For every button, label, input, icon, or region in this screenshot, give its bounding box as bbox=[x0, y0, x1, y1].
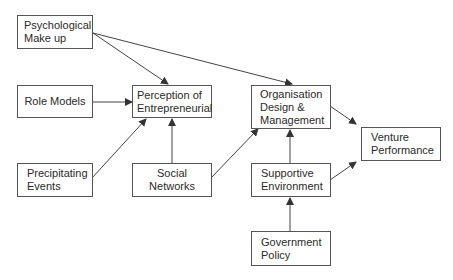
edge-org-venture bbox=[330, 106, 356, 124]
node-government-policy: Government Policy bbox=[251, 231, 331, 266]
node-label-line: Social Networks bbox=[135, 167, 209, 193]
node-supportive-environment: Supportive Environment bbox=[251, 163, 331, 197]
node-label-line: Precipitating bbox=[27, 167, 88, 180]
edge-psych-org bbox=[93, 33, 292, 84]
node-label-line: Venture bbox=[371, 131, 434, 144]
node-role-models: Role Models bbox=[17, 85, 93, 118]
node-label-line: Performance bbox=[371, 144, 434, 157]
node-label-line: Role Models bbox=[24, 95, 85, 108]
node-perception-of-entrepreneurial: Perception of Entrepreneurial bbox=[132, 85, 212, 118]
node-label-line: Supportive bbox=[261, 167, 323, 180]
node-label-line: Perception of bbox=[137, 89, 212, 102]
node-label-line: Entrepreneurial bbox=[137, 102, 212, 115]
node-label-line: Events bbox=[27, 180, 88, 193]
node-label-line: Government bbox=[261, 236, 322, 249]
edge-support-venture bbox=[330, 162, 356, 180]
node-label-line: Organisation bbox=[260, 88, 324, 101]
node-psychological-make-up: Psychological Make up bbox=[17, 15, 93, 49]
node-label-line: Environment bbox=[261, 180, 323, 193]
node-label-line: Make up bbox=[24, 32, 91, 45]
node-precipitating-events: Precipitating Events bbox=[17, 163, 93, 197]
node-organisation-design-management: Organisation Design & Management bbox=[251, 85, 331, 129]
node-venture-performance: Venture Performance bbox=[361, 127, 441, 161]
node-label-line: Psychological bbox=[24, 19, 91, 32]
node-social-networks: Social Networks bbox=[132, 163, 212, 197]
edge-psych-percep bbox=[93, 33, 168, 84]
node-label-line: Policy bbox=[261, 249, 322, 262]
node-label-line: Management bbox=[260, 114, 324, 127]
node-label-line: Design & bbox=[260, 101, 324, 114]
